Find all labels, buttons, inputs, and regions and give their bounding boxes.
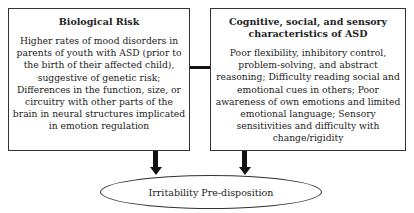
asd-characteristics-body: Poor flexibility, inhibitory control, pr… — [211, 47, 405, 145]
asd-characteristics-box: Cognitive, social, and sensory character… — [210, 8, 406, 151]
irritability-predisposition-ellipse: Irritability Pre-disposition — [100, 175, 322, 209]
box-connector-line — [190, 66, 210, 69]
biological-risk-body: Higher rates of mood disorders in parent… — [9, 35, 189, 133]
asd-characteristics-title: Cognitive, social, and sensory character… — [211, 16, 405, 40]
right-arrow-shaft — [242, 151, 247, 168]
right-arrow-head-icon — [239, 167, 251, 175]
left-arrow-head-icon — [150, 167, 162, 175]
irritability-predisposition-label: Irritability Pre-disposition — [149, 187, 274, 198]
biological-risk-title: Biological Risk — [9, 16, 189, 28]
biological-risk-box: Biological Risk Higher rates of mood dis… — [8, 8, 190, 151]
left-arrow-shaft — [153, 151, 158, 168]
